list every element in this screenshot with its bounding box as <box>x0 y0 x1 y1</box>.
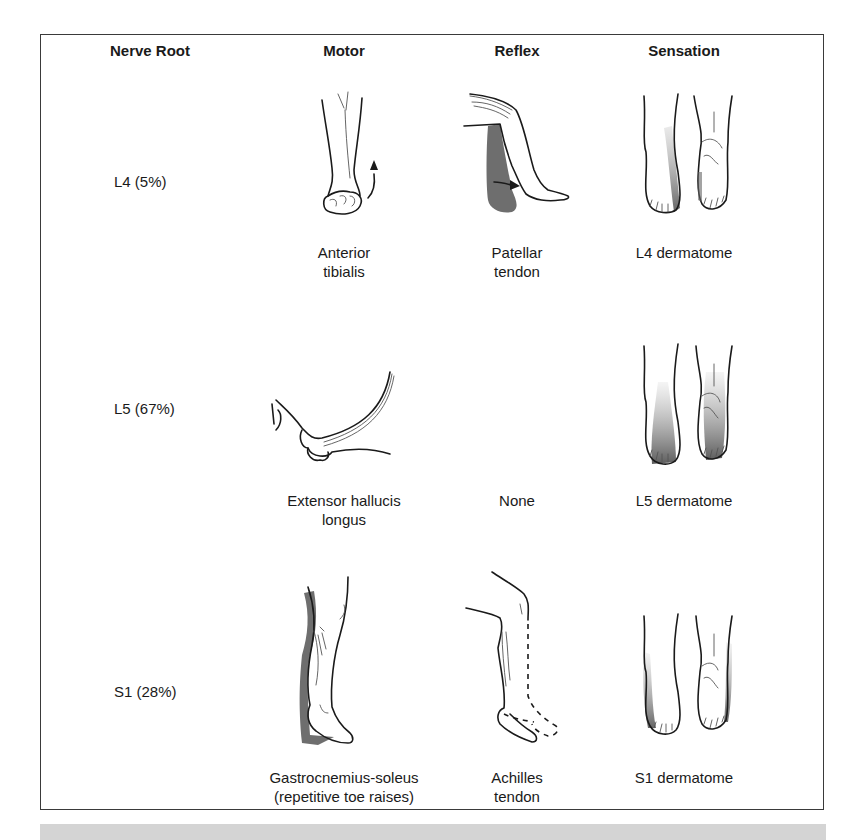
sensation-caption-l5: L5 dermatome <box>584 491 784 510</box>
ankle-jerk-illustration <box>462 568 572 748</box>
feet-dermatome-l5-illustration <box>640 342 740 472</box>
nerve-root-l4: L4 (5%) <box>114 173 167 191</box>
nerve-root-l5: L5 (67%) <box>114 400 175 418</box>
header-motor: Motor <box>264 42 424 60</box>
great-toe-extension-illustration <box>272 368 402 468</box>
motor-caption-s1: Gastrocnemius-soleus (repetitive toe rai… <box>244 768 444 806</box>
toe-raise-illustration <box>300 575 370 750</box>
feet-dermatome-s1-illustration <box>640 612 740 742</box>
header-reflex: Reflex <box>437 42 597 60</box>
motor-caption-l5: Extensor hallucis longus <box>244 491 444 529</box>
footer-band <box>40 824 826 840</box>
header-nerve-root: Nerve Root <box>70 42 230 60</box>
ankle-dorsiflexion-illustration <box>318 88 388 218</box>
sensation-caption-l4: L4 dermatome <box>584 243 784 262</box>
header-sensation: Sensation <box>604 42 764 60</box>
sensation-caption-s1: S1 dermatome <box>584 768 784 787</box>
motor-caption-l4: Anterior tibialis <box>244 243 444 281</box>
feet-dermatome-l4-illustration <box>640 92 740 217</box>
nerve-root-s1: S1 (28%) <box>114 683 177 701</box>
knee-jerk-illustration <box>468 90 578 215</box>
